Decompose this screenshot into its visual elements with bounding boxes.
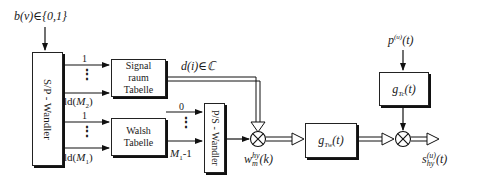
- signal-table-line2: raum: [128, 72, 149, 84]
- g-tc-filter-label: gTc(t): [392, 82, 416, 96]
- pn-sequence-label: p(u)(t): [388, 34, 414, 46]
- signal-space-table-block: Signal raum Tabelle: [111, 59, 166, 97]
- g-tw-filter-block: gTw(t): [305, 123, 357, 158]
- sp-lower-last-index: ld(M1): [64, 152, 93, 163]
- g-tc-filter-block: gTc(t): [379, 72, 429, 106]
- sp-converter-block: S/P - Wandler: [32, 52, 63, 166]
- signal-table-line3: Tabelle: [124, 84, 153, 96]
- signal-table-line1: Signal: [126, 60, 152, 72]
- sp-converter-label: S/P - Wandler: [41, 79, 54, 140]
- complex-symbol-label: d(i)∈ℂ: [181, 60, 215, 72]
- ps-first-index: 0: [179, 102, 184, 112]
- ps-dots: ⋮: [179, 116, 193, 130]
- output-signal-label: s(u)hy(t): [422, 152, 447, 168]
- walsh-table-line1: Walsh: [126, 125, 151, 137]
- sp-upper-last-index: ld(M2): [64, 96, 93, 107]
- ps-last-index: M1-1: [170, 148, 192, 159]
- multiplier-1-icon: [251, 132, 266, 147]
- input-bit-label: b(ν)∈{0,1}: [14, 10, 67, 22]
- walsh-table-block: Walsh Tabelle: [111, 118, 166, 156]
- g-tw-filter-label: gTw(t): [318, 133, 343, 147]
- walsh-table-line2: Tabelle: [124, 137, 153, 149]
- sp-lower-dots: ⋮: [80, 125, 94, 139]
- ps-converter-block: P/S - Wandler: [204, 103, 225, 173]
- ps-converter-label: P/S - Wandler: [209, 110, 221, 166]
- multiplier-2-icon: [396, 132, 411, 147]
- sp-lower-first-index: 1: [82, 111, 87, 121]
- walsh-signal-label: whym(k): [244, 152, 273, 168]
- sp-upper-first-index: 1: [82, 54, 87, 64]
- sp-upper-dots: ⋮: [80, 68, 94, 82]
